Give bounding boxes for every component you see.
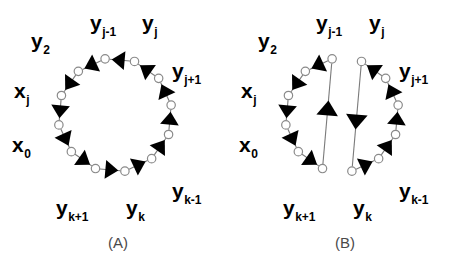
graph-node: [391, 130, 399, 138]
graph-node: [374, 154, 382, 162]
node-label-subscript: 2: [270, 43, 277, 57]
node-label-subscript: k: [365, 210, 372, 224]
graph-node: [55, 121, 63, 129]
node-label-subscript: k+1: [295, 210, 316, 224]
graph-node: [301, 67, 309, 75]
graph-node: [348, 167, 356, 175]
graph-node: [381, 74, 389, 82]
node-label-subscript: 0: [24, 147, 31, 161]
graph-node: [147, 154, 155, 162]
node-label-subscript: k: [138, 210, 145, 224]
node-label-subscript: j: [153, 25, 157, 39]
node-label-subscript: k-1: [411, 193, 429, 207]
graph-node: [121, 167, 129, 175]
node-label-subscript: j: [25, 93, 29, 107]
node-label-subscript: k-1: [184, 193, 202, 207]
node-label-subscript: j: [380, 25, 384, 39]
graph-node: [167, 101, 175, 109]
panel-b-caption: (B): [335, 234, 355, 251]
node-label-subscript: k+1: [68, 210, 89, 224]
node-label-subscript: j-1: [101, 25, 116, 39]
node-label-subscript: j: [252, 93, 256, 107]
graph-node: [57, 91, 65, 99]
node-label-subscript: 0: [251, 147, 258, 161]
figure-canvas: y2yj-1yjyj+1yk-1ykyk+1x0xj (A) y2yj-1yjy…: [0, 0, 457, 271]
graph-node: [91, 164, 99, 172]
graph-node: [394, 101, 402, 109]
panel-a-caption: (A): [108, 234, 128, 251]
node-label-subscript: j+1: [183, 73, 201, 87]
graph-node: [101, 55, 109, 63]
graph-node: [164, 130, 172, 138]
graph-node: [154, 74, 162, 82]
graph-node: [294, 147, 302, 155]
node-label-subscript: 2: [43, 43, 50, 57]
graph-node: [357, 57, 365, 65]
graph-node: [328, 55, 336, 63]
graph-node: [130, 57, 138, 65]
graph-node: [284, 91, 292, 99]
graph-node: [67, 147, 75, 155]
graph-node: [74, 67, 82, 75]
node-label-subscript: j+1: [410, 73, 428, 87]
graph-node: [282, 121, 290, 129]
node-label-subscript: j-1: [327, 25, 342, 39]
graph-node: [318, 164, 326, 172]
